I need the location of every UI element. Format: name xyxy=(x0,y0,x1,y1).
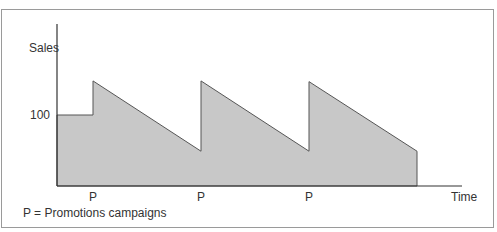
promotion-marker-label: P xyxy=(89,190,97,204)
sales-area xyxy=(57,81,417,186)
sales-sawtooth-chart: Sales Time 100 PPP P = Promotions campai… xyxy=(0,0,497,232)
y-axis-label: Sales xyxy=(29,41,59,55)
x-axis-label: Time xyxy=(451,190,478,204)
legend-annotation: P = Promotions campaigns xyxy=(23,206,167,220)
promotion-marker-label: P xyxy=(197,190,205,204)
promotion-marker-label: P xyxy=(305,190,313,204)
y-tick-label: 100 xyxy=(30,108,50,122)
